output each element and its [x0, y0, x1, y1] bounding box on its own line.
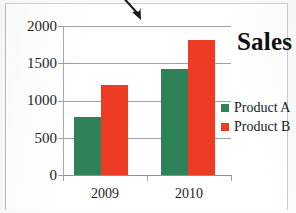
y-axis-label-0: 0: [11, 168, 57, 183]
bar-2010-product-b: [188, 40, 215, 175]
gridline-2000: [63, 26, 231, 27]
legend-item-product-a: Product A: [221, 98, 290, 117]
x-axis-tick-start: [63, 175, 64, 181]
y-tick-500: [58, 138, 63, 139]
chart-title: Sales: [237, 28, 292, 56]
bar-2009-product-b: [101, 85, 128, 175]
y-axis-label-1500: 1500: [11, 56, 57, 71]
x-axis-tick-end: [231, 175, 232, 181]
bar-2009-product-a: [74, 117, 101, 175]
x-axis-label-2010: 2010: [159, 186, 219, 202]
chart-frame: 2000 1500 1000 500 0: [5, 3, 288, 210]
y-axis-label-2000: 2000: [11, 19, 57, 34]
bar-2010-product-a: [161, 69, 188, 175]
legend-label-product-b: Product B: [234, 119, 290, 135]
x-axis-label-2009: 2009: [75, 186, 135, 202]
legend-swatch-icon-product-b: [221, 123, 229, 131]
y-tick-2000: [58, 26, 63, 27]
y-axis-label-500: 500: [11, 131, 57, 146]
y-tick-1000: [58, 101, 63, 102]
y-tick-1500: [58, 63, 63, 64]
legend-swatch-icon-product-a: [221, 104, 229, 112]
legend-item-product-b: Product B: [221, 117, 290, 136]
y-axis-labels: 2000 1500 1000 500 0: [8, 26, 57, 176]
chart-screenshot: 2000 1500 1000 500 0: [0, 0, 296, 213]
chart-legend: Product A Product B: [221, 98, 290, 136]
y-axis-label-1000: 1000: [11, 93, 57, 108]
plot-area: [63, 26, 231, 175]
x-axis-tick-mid: [147, 175, 148, 181]
legend-label-product-a: Product A: [234, 100, 290, 116]
